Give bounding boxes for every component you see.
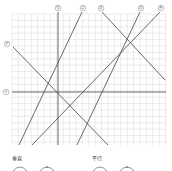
line-labels: アイウエオカキ (3, 5, 164, 95)
line-ka (77, 12, 140, 145)
answer-arc-icon (13, 167, 27, 171)
dot-icon (126, 166, 127, 167)
line-diagram: アイウエオカキ 垂直 平行 (0, 0, 172, 171)
legend-parallel: 平行 (92, 155, 134, 171)
line-a (13, 47, 108, 145)
line-label-ki: キ (159, 6, 163, 10)
perpendicular-label: 垂直 (12, 155, 22, 161)
legend-perpendicular: 垂直 (12, 155, 54, 171)
line-label-o: オ (99, 5, 103, 10)
line-label-ka: カ (139, 5, 143, 10)
parallel-label: 平行 (92, 155, 102, 162)
line-label-a: ア (5, 41, 9, 46)
line-label-u: ウ (56, 5, 60, 10)
dot-icon (46, 166, 47, 167)
line-label-e: エ (81, 6, 85, 10)
answer-arc-icon (93, 167, 107, 171)
line-ki (32, 12, 160, 145)
line-label-i: イ (4, 90, 8, 94)
